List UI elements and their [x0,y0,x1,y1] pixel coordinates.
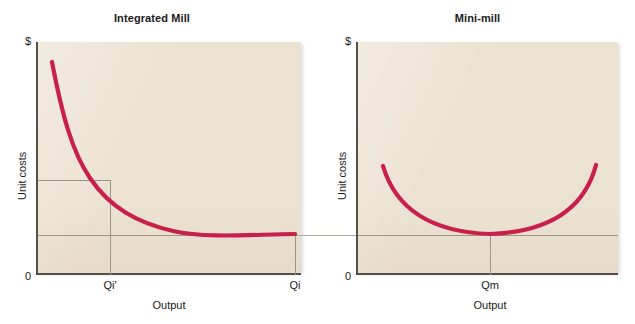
x-axis-line-mini-mill [356,273,618,275]
y-axis-top-tick-integrated-mill: $ [25,35,31,47]
chart-title-integrated-mill: Integrated Mill [0,12,312,24]
cost-curve-mini-mill [358,42,618,273]
plot-area-mini-mill: $ 0 Qm Output Unit costs [358,42,618,273]
x-tick-label-qm: Qm [481,279,499,291]
y-axis-zero-tick-mini-mill: 0 [345,270,351,282]
cost-curve-integrated-mill [38,42,301,273]
x-axis-label-mini-mill: Output [473,299,506,311]
y-axis-top-tick-mini-mill: $ [345,35,351,47]
y-axis-label-mini-mill: Unit costs [336,152,348,200]
figure-container: Integrated Mill $ 0 Qi' Qi Output Unit c… [0,0,635,324]
x-tick-label-qi: Qi [290,279,301,291]
plot-area-integrated-mill: $ 0 Qi' Qi Output Unit costs [38,42,301,273]
chart-title-mini-mill: Mini-mill [320,12,635,24]
x-axis-line-integrated-mill [36,273,301,275]
x-axis-label-integrated-mill: Output [152,299,185,311]
y-axis-label-integrated-mill: Unit costs [16,152,28,200]
chart-panel-integrated-mill: Integrated Mill $ 0 Qi' Qi Output Unit c… [0,0,320,324]
chart-panel-mini-mill: Mini-mill $ 0 Qm Output Unit costs [320,0,635,324]
y-axis-zero-tick-integrated-mill: 0 [25,270,31,282]
x-tick-label-qi-prime: Qi' [103,279,116,291]
